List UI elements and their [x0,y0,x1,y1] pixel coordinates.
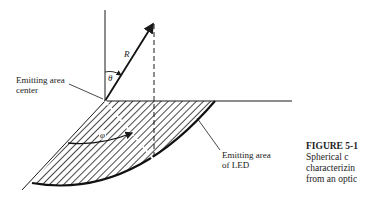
theta-symbol: θ [108,73,112,83]
caption-line-3: from an optic [306,174,358,185]
figure-caption: FIGURE 5-1 Spherical c characterizin fro… [306,141,358,185]
radius-vector [105,24,153,101]
led-leader-line [197,118,220,150]
caption-line-2: characterizin [306,163,358,174]
emitting-area-center-label: Emitting area center [16,75,65,95]
phi-symbol: φ [99,130,106,140]
figure-number: FIGURE 5-1 [306,141,358,152]
emitting-area-led-label: Emitting area of LED [222,150,271,170]
caption-line-1: Spherical c [306,152,358,163]
radius-symbol: R [124,49,130,59]
center-leader-line [69,84,103,99]
